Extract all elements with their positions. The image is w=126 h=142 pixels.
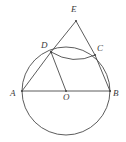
label-point-a: A [10, 89, 16, 98]
segment-CB [95, 55, 110, 91]
point-marker-a [21, 90, 23, 92]
label-point-b: B [113, 89, 119, 98]
segment-EC [76, 21, 95, 55]
label-point-d: D [41, 41, 48, 50]
point-marker-e [75, 20, 77, 22]
point-marker-b [109, 90, 111, 92]
point-marker-d [50, 51, 52, 53]
geometry-canvas [0, 0, 126, 142]
label-point-c: C [97, 44, 103, 53]
geometry-figure: A B C D E O [0, 0, 126, 142]
point-marker-c [94, 54, 96, 56]
label-point-o: O [63, 93, 70, 102]
label-point-e: E [71, 5, 77, 14]
